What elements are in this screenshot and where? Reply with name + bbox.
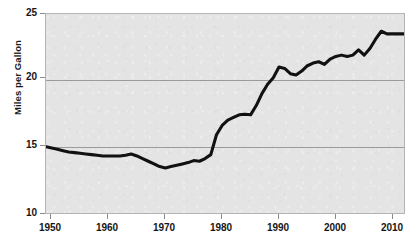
x-tick-mark-2000 [335,214,336,219]
x-tick-mark-1960 [107,214,108,219]
x-tick-label-1980: 1980 [201,222,241,233]
x-tick-mark-1980 [221,214,222,219]
plot-svg [46,14,404,213]
x-tick-mark-1950 [50,214,51,219]
x-tick-label-2000: 2000 [315,222,355,233]
x-tick-label-2010: 2010 [372,222,412,233]
x-tick-label-1950: 1950 [30,222,70,233]
x-tick-mark-2010 [392,214,393,219]
gridlines [46,81,404,147]
plot-area [45,13,405,214]
x-tick-mark-1990 [278,214,279,219]
y-tick-label-20: 20 [11,72,37,82]
x-tick-label-1970: 1970 [144,222,184,233]
x-tick-label-1990: 1990 [258,222,298,233]
y-tick-label-15: 15 [11,140,37,150]
y-tick-label-10: 10 [11,208,37,218]
x-tick-mark-1970 [164,214,165,219]
x-tick-label-1960: 1960 [87,222,127,233]
y-tick-label-25: 25 [11,8,37,18]
fuel-economy-line-chart: Miles per Gallon 25 20 15 10 1950 1960 1… [0,0,413,244]
